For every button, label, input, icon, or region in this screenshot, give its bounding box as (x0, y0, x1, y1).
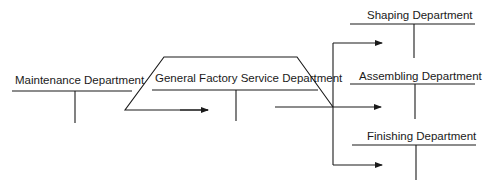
maintenance-department-account: Maintenance Department (12, 74, 145, 123)
shaping-department-label: Shaping Department (367, 9, 473, 21)
assembling-department-account: Assembling Department (350, 70, 483, 119)
cost-allocation-diagram: Maintenance Department General Factory S… (0, 0, 493, 189)
shaping-department-account: Shaping Department (350, 9, 475, 58)
finishing-department-label: Finishing Department (367, 130, 477, 142)
general-factory-service-account: General Factory Service Department (152, 72, 343, 121)
assembling-department-label: Assembling Department (359, 70, 483, 82)
maintenance-department-label: Maintenance Department (15, 74, 145, 86)
maintenance-allocation-flow (125, 43, 382, 165)
finishing-department-account: Finishing Department (352, 130, 477, 180)
